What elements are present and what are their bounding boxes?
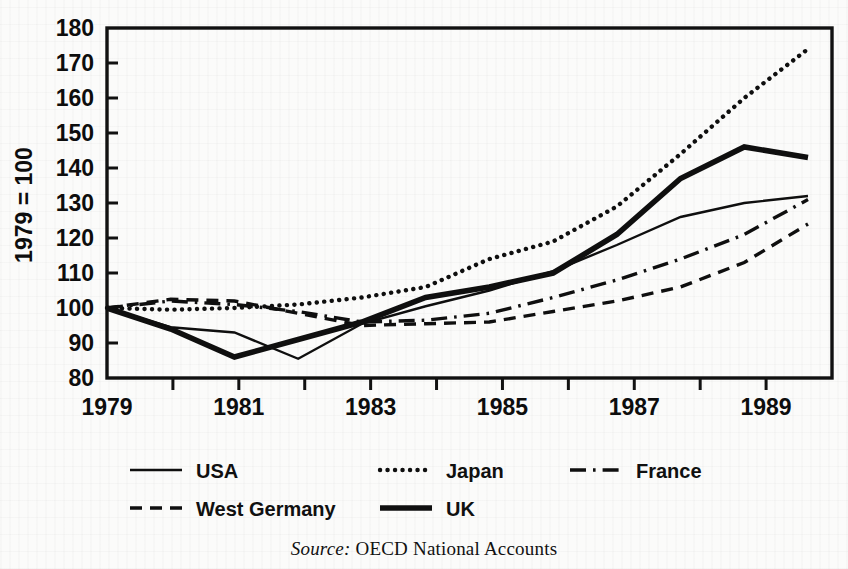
chart-figure: 8090100110120130140150160170180 19791981… [0, 0, 848, 569]
y-tick-label: 140 [56, 155, 94, 181]
chart-legend: USAJapanFranceWest GermanyUK [130, 460, 702, 520]
series-line-france [107, 200, 808, 323]
y-tick-label: 120 [56, 225, 94, 251]
x-tick-label: 1987 [609, 394, 660, 420]
y-tick-label: 150 [56, 120, 94, 146]
legend-item-japan[interactable]: Japan [380, 460, 504, 482]
source-keyword: Source: [291, 538, 351, 559]
x-tick-label: 1981 [213, 394, 264, 420]
y-tick-label: 110 [57, 260, 94, 286]
y-axis-title: 1979 = 100 [11, 147, 37, 263]
legend-label-japan: Japan [446, 460, 504, 482]
x-axis-tick-labels: 197919811983198519871989 [81, 394, 791, 420]
legend-label-west-germany: West Germany [196, 498, 337, 520]
y-tick-label: 100 [56, 295, 94, 321]
legend-item-uk[interactable]: UK [380, 498, 475, 520]
y-axis-tick-labels: 8090100110120130140150160170180 [56, 15, 94, 391]
source-text: OECD National Accounts [355, 538, 557, 559]
legend-item-usa[interactable]: USA [130, 460, 238, 482]
legend-item-france[interactable]: France [570, 460, 702, 482]
data-series [107, 49, 808, 359]
y-tick-label: 160 [56, 85, 94, 111]
y-tick-label: 130 [56, 190, 94, 216]
legend-label-uk: UK [446, 498, 475, 520]
series-line-uk [107, 147, 808, 357]
x-tick-label: 1979 [81, 394, 132, 420]
plot-border [107, 28, 832, 378]
x-tick-label: 1983 [345, 394, 396, 420]
x-tick-label: 1985 [477, 394, 528, 420]
line-chart: 8090100110120130140150160170180 19791981… [0, 0, 848, 569]
series-line-japan [107, 49, 808, 310]
source-caption: Source: OECD National Accounts [0, 538, 848, 560]
y-tick-label: 90 [68, 330, 94, 356]
axis-ticks [107, 63, 766, 390]
legend-label-france: France [636, 460, 702, 482]
x-tick-label: 1989 [741, 394, 792, 420]
legend-item-west-germany[interactable]: West Germany [130, 498, 337, 520]
y-tick-label: 80 [68, 365, 94, 391]
y-tick-label: 170 [56, 50, 94, 76]
plot-frame [107, 28, 832, 378]
legend-label-usa: USA [196, 460, 238, 482]
y-tick-label: 180 [56, 15, 94, 41]
y-axis-title-text: 1979 = 100 [11, 147, 37, 263]
